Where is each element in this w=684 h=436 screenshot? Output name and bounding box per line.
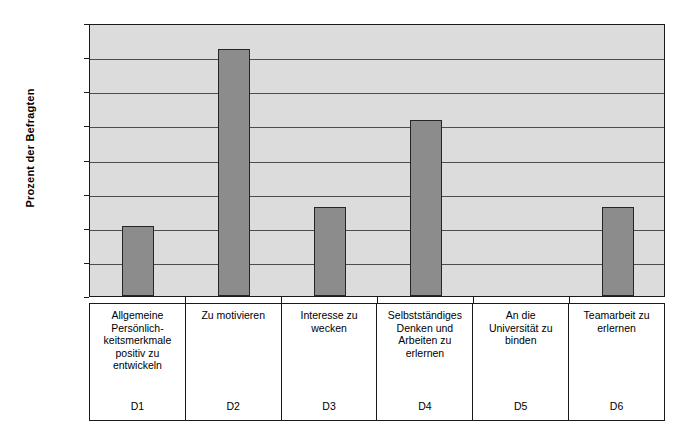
category-cell-d3: Interesse zu weckenD3: [282, 304, 378, 420]
y-tick-mark: [84, 126, 89, 127]
category-code: D4: [377, 400, 472, 412]
y-tick-mark: [84, 229, 89, 230]
bar-chart: Prozent der Befragten 16,0014,0012,0010,…: [0, 0, 684, 436]
bar-d6[interactable]: [602, 207, 635, 296]
plot-area: [89, 24, 665, 297]
category-code: D1: [90, 400, 185, 412]
category-label: Zu motivieren: [198, 309, 268, 322]
category-label: An die Universität zu binden: [486, 309, 556, 347]
category-cell-d4: Selbstständiges Denken und Arbeiten zu e…: [377, 304, 473, 420]
bar-slot: [282, 25, 378, 296]
y-tick-mark: [84, 195, 89, 196]
bar-slot: [90, 25, 186, 296]
y-tick-mark: [84, 24, 89, 25]
bar-d4[interactable]: [410, 120, 443, 296]
category-cell-d6: Teamarbeit zu erlernenD6: [569, 304, 664, 420]
category-label-table: Allgemeine Persönlich- keitsmerkmale pos…: [89, 303, 665, 421]
category-label: Interesse zu wecken: [297, 309, 360, 334]
y-tick-mark: [84, 58, 89, 59]
category-cell-d5: An die Universität zu bindenD5: [473, 304, 569, 420]
category-cell-d2: Zu motivierenD2: [186, 304, 282, 420]
bar-d3[interactable]: [314, 207, 347, 296]
category-code: D3: [282, 400, 377, 412]
category-code: D2: [186, 400, 281, 412]
bar-d2[interactable]: [218, 49, 251, 296]
category-code: D5: [473, 400, 568, 412]
y-tick-mark: [84, 263, 89, 264]
y-tick-mark: [84, 92, 89, 93]
y-tick-mark: [84, 297, 89, 298]
category-code: D6: [569, 400, 664, 412]
category-label: Allgemeine Persönlich- keitsmerkmale pos…: [101, 309, 175, 372]
bars-layer: [90, 25, 664, 296]
category-cell-d1: Allgemeine Persönlich- keitsmerkmale pos…: [90, 304, 186, 420]
y-tick-mark: [84, 161, 89, 162]
bar-slot: [474, 25, 570, 296]
y-axis-title: Prozent der Befragten: [24, 48, 36, 248]
bar-d1[interactable]: [122, 226, 155, 296]
category-label: Selbstständiges Denken und Arbeiten zu e…: [385, 309, 465, 359]
category-label: Teamarbeit zu erlernen: [581, 309, 653, 334]
bar-slot: [186, 25, 282, 296]
bar-slot: [570, 25, 666, 296]
bar-slot: [378, 25, 474, 296]
